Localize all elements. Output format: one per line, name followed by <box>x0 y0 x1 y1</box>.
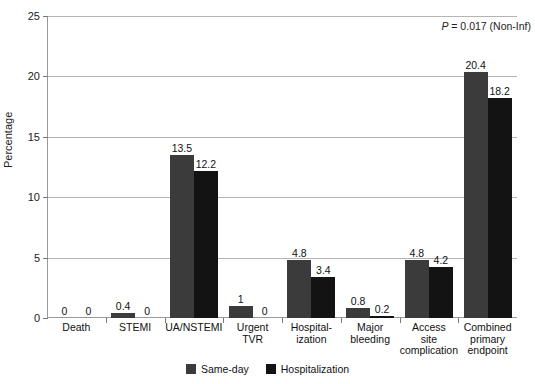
x-axis-label: UA/NSTEMI <box>165 322 224 357</box>
y-axis-tick-label: 10 <box>28 191 40 203</box>
bar-value-label: 0 <box>262 305 268 317</box>
y-axis-tick-label: 5 <box>34 252 40 264</box>
x-axis-label: STEMI <box>106 322 165 357</box>
p-value-text: = 0.017 (Non-Inf) <box>448 20 531 32</box>
x-axis-label: UrgentTVR <box>223 322 282 357</box>
bar-slot: 0.8 <box>346 16 370 318</box>
bar-slot: 13.5 <box>170 16 194 318</box>
x-axis-label: Accesssitecomplication <box>400 322 459 357</box>
bar-group: 0.80.2 <box>341 16 400 318</box>
bar[interactable] <box>346 308 370 318</box>
bar[interactable] <box>488 98 512 318</box>
y-axis-tick <box>43 318 48 319</box>
bar[interactable] <box>287 260 311 318</box>
bar-value-label: 0.2 <box>375 303 390 315</box>
bar-value-label: 0.8 <box>351 295 366 307</box>
bar[interactable] <box>229 306 253 318</box>
legend-swatch-icon <box>266 364 276 374</box>
bar-value-label: 4.8 <box>292 247 307 259</box>
bar-pair: 10 <box>223 16 282 318</box>
bar-value-label: 0.4 <box>116 300 131 312</box>
p-value-annotation: P = 0.017 (Non-Inf) <box>441 20 531 32</box>
legend-item[interactable]: Same-day <box>186 363 249 375</box>
bar[interactable] <box>170 155 194 318</box>
bar-value-label: 18.2 <box>489 85 509 97</box>
bar-group: 13.512.2 <box>165 16 224 318</box>
bar-pair: 4.84.2 <box>400 16 459 318</box>
bar-value-label: 4.2 <box>434 254 449 266</box>
bar-value-label: 4.8 <box>410 247 425 259</box>
bar-pair: 20.418.2 <box>458 16 517 318</box>
x-axis-labels: DeathSTEMIUA/NSTEMIUrgentTVRHospital-iza… <box>47 322 517 357</box>
bar-value-label: 1 <box>238 293 244 305</box>
y-axis-title: Percentage <box>2 112 14 168</box>
bar-pair: 00 <box>47 16 106 318</box>
y-axis-tick-label: 20 <box>28 70 40 82</box>
bar-pair: 13.512.2 <box>165 16 224 318</box>
bar-value-label: 20.4 <box>465 59 485 71</box>
bar-slot: 0 <box>135 16 159 318</box>
bar-chart: Percentage 0510152025 000.4013.512.2104.… <box>0 0 535 384</box>
y-axis-tick-label: 25 <box>28 10 40 22</box>
x-axis-label: Combinedprimaryendpoint <box>458 322 517 357</box>
bar-value-label: 3.4 <box>316 264 331 276</box>
bar-pair: 0.40 <box>106 16 165 318</box>
bar[interactable] <box>311 277 335 318</box>
bar-slot: 0.2 <box>370 16 394 318</box>
bar[interactable] <box>370 316 394 318</box>
bar-group: 10 <box>223 16 282 318</box>
bar[interactable] <box>194 171 218 318</box>
bar-slot: 4.8 <box>405 16 429 318</box>
bar-pair: 0.80.2 <box>341 16 400 318</box>
bar[interactable] <box>429 267 453 318</box>
bar-pair: 4.83.4 <box>282 16 341 318</box>
bar-group: 00 <box>47 16 106 318</box>
legend-label: Hospitalization <box>281 363 349 375</box>
bar-slot: 0 <box>52 16 76 318</box>
bar-slot: 3.4 <box>311 16 335 318</box>
bar-value-label: 0 <box>61 305 67 317</box>
bar-value-label: 12.2 <box>196 158 216 170</box>
bar-value-label: 13.5 <box>172 142 192 154</box>
bar-slot: 4.8 <box>287 16 311 318</box>
bar-group: 20.418.2 <box>458 16 517 318</box>
bar-value-label: 0 <box>85 305 91 317</box>
x-axis-label: Hospital-ization <box>282 322 341 357</box>
x-axis-label: Death <box>47 322 106 357</box>
legend-label: Same-day <box>201 363 249 375</box>
y-axis-tick-label: 0 <box>34 312 40 324</box>
bar-groups: 000.4013.512.2104.83.40.80.24.84.220.418… <box>47 16 517 318</box>
legend-swatch-icon <box>186 364 196 374</box>
bar[interactable] <box>111 313 135 318</box>
chart-legend: Same-dayHospitalization <box>0 363 535 375</box>
bar-group: 0.40 <box>106 16 165 318</box>
bar-slot: 0 <box>76 16 100 318</box>
y-axis-tick-label: 15 <box>28 131 40 143</box>
bar[interactable] <box>405 260 429 318</box>
x-axis-label: Majorbleeding <box>341 322 400 357</box>
bar-slot: 0.4 <box>111 16 135 318</box>
bar-group: 4.83.4 <box>282 16 341 318</box>
bar-value-label: 0 <box>144 305 150 317</box>
bar-slot: 20.4 <box>464 16 488 318</box>
bar-slot: 12.2 <box>194 16 218 318</box>
bar[interactable] <box>464 72 488 318</box>
bar-slot: 1 <box>229 16 253 318</box>
legend-item[interactable]: Hospitalization <box>266 363 349 375</box>
bar-slot: 4.2 <box>429 16 453 318</box>
bar-slot: 0 <box>253 16 277 318</box>
bar-group: 4.84.2 <box>400 16 459 318</box>
bar-slot: 18.2 <box>488 16 512 318</box>
